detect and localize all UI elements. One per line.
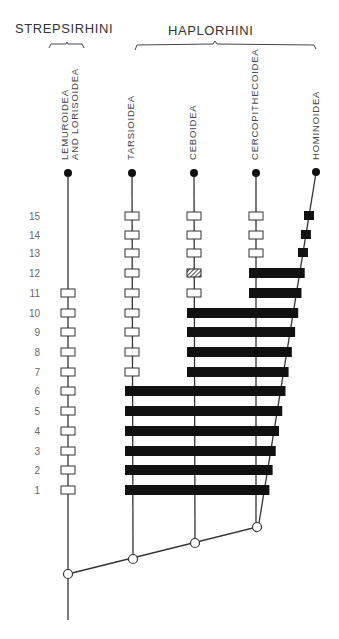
open-box xyxy=(61,368,75,376)
group-label-haplorhini: HAPLORHINI xyxy=(168,23,253,38)
row-number: 12 xyxy=(29,268,41,279)
open-box xyxy=(61,407,75,415)
filled-box xyxy=(301,230,311,239)
open-box xyxy=(125,348,139,356)
open-box xyxy=(125,249,139,257)
row-number: 5 xyxy=(34,406,40,417)
row-number: 7 xyxy=(34,367,40,378)
open-box xyxy=(249,212,263,220)
row-number: 4 xyxy=(34,426,40,437)
tip-dot-lemuroidea xyxy=(64,169,72,177)
open-box xyxy=(61,289,75,297)
open-box xyxy=(61,466,75,474)
tip-dot-cercopithecoidea xyxy=(252,169,260,177)
grouping-bar xyxy=(187,327,295,337)
open-box xyxy=(125,328,139,336)
open-box xyxy=(61,348,75,356)
grouping-bar xyxy=(187,367,289,377)
row-number: 6 xyxy=(34,386,40,397)
open-box xyxy=(249,249,263,257)
open-box xyxy=(125,368,139,376)
row-number: 1 xyxy=(34,485,40,496)
row-numbers: 151413121110987654321 xyxy=(29,211,41,496)
open-box xyxy=(61,387,75,395)
hatched-box xyxy=(187,269,201,277)
grouping-bar xyxy=(125,406,282,416)
filled-box xyxy=(304,211,314,220)
taxon-label-hominoidea: HOMINOIDEA xyxy=(310,91,321,160)
row-number: 9 xyxy=(34,327,40,338)
node-anthropoidea xyxy=(191,539,200,548)
open-box xyxy=(125,269,139,277)
open-box xyxy=(125,289,139,297)
group-label-strepsirhini: STREPSIRHINI xyxy=(15,21,113,36)
grouping-bar xyxy=(125,386,285,396)
open-box xyxy=(187,212,201,220)
taxon-label-cercopithecoidea: CERCOPITHECOIDEA xyxy=(249,48,260,160)
tip-dot-tarsioidea xyxy=(128,169,136,177)
node-haplorhini xyxy=(129,555,138,564)
taxon-label-lorisoidea: AND LORISOIDEA xyxy=(69,68,80,160)
open-box xyxy=(249,231,263,239)
open-box xyxy=(187,231,201,239)
tip-dot-ceboidea xyxy=(190,169,198,177)
row-number: 2 xyxy=(34,465,40,476)
row-number: 14 xyxy=(29,230,41,241)
grouping-bar xyxy=(187,347,292,357)
open-box xyxy=(61,486,75,494)
row-number: 8 xyxy=(34,347,40,358)
grouping-marks xyxy=(61,211,314,495)
taxon-tip-dots xyxy=(64,168,320,177)
open-box xyxy=(61,328,75,336)
tree-lines xyxy=(68,173,316,620)
row-number: 10 xyxy=(29,308,41,319)
grouping-bar xyxy=(125,485,269,495)
grouping-bar xyxy=(125,465,273,475)
open-box xyxy=(61,427,75,435)
taxon-label-tarsioidea: TARSIOIDEA xyxy=(125,95,136,160)
open-box xyxy=(125,231,139,239)
primate-cladogram: STREPSIRHINI HAPLORHINI LEMUROIDEA AND L… xyxy=(0,0,339,639)
open-box xyxy=(61,309,75,317)
brace-strepsirhini xyxy=(49,42,84,48)
grouping-bar xyxy=(187,308,298,318)
grouping-bar xyxy=(125,426,279,436)
taxon-label-ceboidea: CEBOIDEA xyxy=(187,105,198,161)
open-box xyxy=(187,249,201,257)
grouping-bar xyxy=(249,288,301,298)
open-box xyxy=(61,447,75,455)
node-root xyxy=(64,570,73,579)
tip-dot-hominoidea xyxy=(312,168,320,176)
brace-haplorhini xyxy=(135,41,316,50)
open-box xyxy=(125,309,139,317)
row-number: 3 xyxy=(34,446,40,457)
row-number: 11 xyxy=(30,288,41,299)
grouping-bar xyxy=(249,268,305,278)
open-box xyxy=(125,212,139,220)
grouping-bar xyxy=(125,446,276,456)
row-number: 15 xyxy=(29,211,41,222)
row-number: 13 xyxy=(29,248,41,259)
filled-box xyxy=(298,248,308,257)
open-box xyxy=(187,289,201,297)
node-catarrhini xyxy=(253,523,262,532)
